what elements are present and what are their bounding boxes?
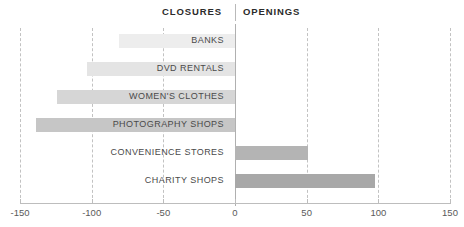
- tick-mark--150: [20, 199, 21, 204]
- category-label: WOMEN'S CLOTHES: [129, 91, 229, 101]
- tick-mark-150: [450, 199, 451, 204]
- legend-divider: [235, 4, 236, 21]
- bar-row: CONVENIENCE STORES: [0, 146, 464, 160]
- category-label: CONVENIENCE STORES: [111, 147, 229, 157]
- bar-convenience-stores[interactable]: [235, 146, 308, 160]
- tick-mark--50: [163, 199, 164, 204]
- tick-label--150: -150: [10, 207, 29, 218]
- category-label: DVD RENTALS: [157, 63, 229, 73]
- tick-label-0: 0: [232, 207, 237, 218]
- bar-row: BANKS: [0, 34, 464, 48]
- tick-label-50: 50: [301, 207, 312, 218]
- tick-label-150: 150: [442, 207, 458, 218]
- category-label: CHARITY SHOPS: [145, 175, 229, 185]
- diverging-bar-chart: CLOSURES OPENINGS -150-100-50050100150 B…: [0, 0, 464, 227]
- category-label: BANKS: [191, 35, 229, 45]
- category-label: PHOTOGRAPHY SHOPS: [113, 119, 229, 129]
- bar-row: DVD RENTALS: [0, 62, 464, 76]
- tick-label-100: 100: [370, 207, 386, 218]
- legend-label-closures: CLOSURES: [162, 6, 222, 17]
- bar-row: WOMEN'S CLOTHES: [0, 90, 464, 104]
- legend-label-openings: OPENINGS: [243, 6, 300, 17]
- bar-row: PHOTOGRAPHY SHOPS: [0, 118, 464, 132]
- tick-label--50: -50: [156, 207, 170, 218]
- bar-charity-shops[interactable]: [235, 174, 375, 188]
- bar-row: CHARITY SHOPS: [0, 174, 464, 188]
- tick-mark--100: [92, 199, 93, 204]
- tick-mark-100: [378, 199, 379, 204]
- tick-label--100: -100: [82, 207, 101, 218]
- tick-mark-50: [307, 199, 308, 204]
- tick-mark-0: [235, 199, 236, 204]
